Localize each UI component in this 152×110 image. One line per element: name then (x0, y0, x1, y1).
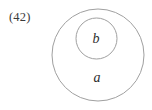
euler-diagram-graphic (0, 0, 152, 110)
outer-set-circle (52, 9, 144, 101)
inner-set-label: b (93, 32, 100, 46)
outer-set-label: a (94, 71, 101, 85)
figure-container: (42) b a (0, 0, 152, 110)
